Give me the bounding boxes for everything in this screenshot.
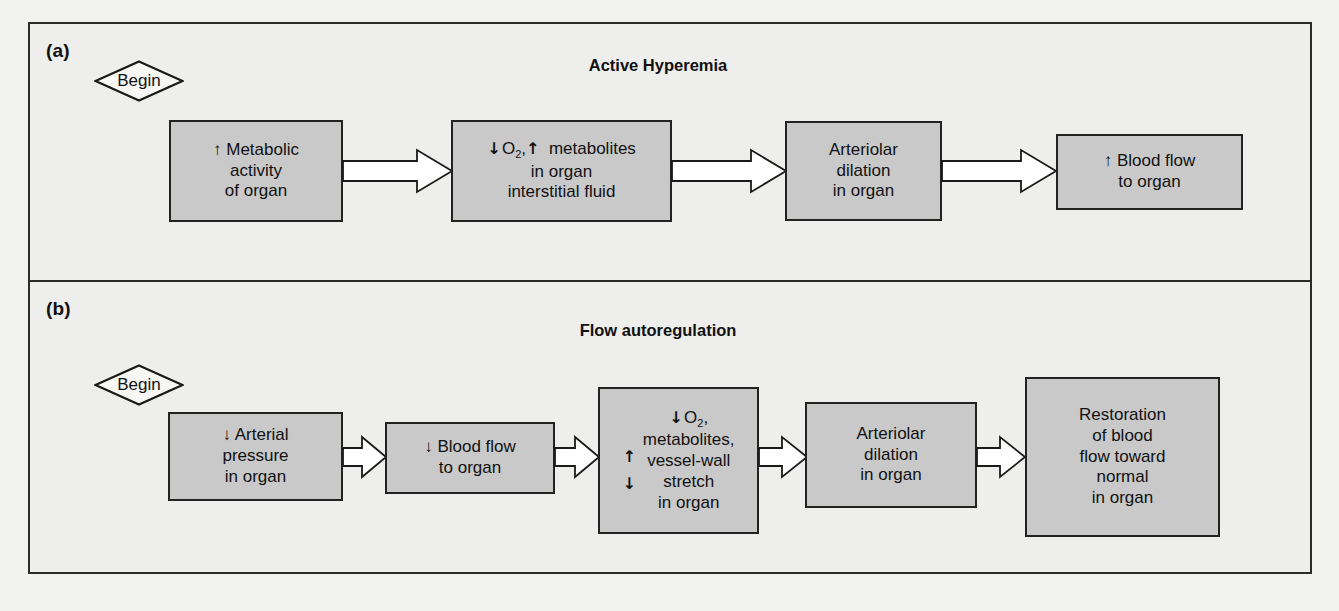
arrow-b4-to-b5	[975, 435, 1027, 479]
panel-active-hyperemia: (a) Active Hyperemia Begin ↑ Metabolic a…	[30, 24, 1310, 280]
node-a2-line-2: in organ	[487, 162, 636, 183]
arrow-b3-to-b4	[757, 435, 809, 479]
node-a3-line-1: Arteriolar	[829, 140, 898, 161]
node-o2-metabolites-stretch[interactable]: ↑ ↓ ↓ O2, metabolites, vessel-wall stret…	[598, 387, 759, 534]
node-b3-line-2: metabolites,	[643, 430, 735, 451]
node-b1-line-1: ↓ Arterial	[222, 425, 288, 446]
node-b5-line-2: of blood	[1079, 426, 1166, 447]
node-arteriolar-dilation-a[interactable]: Arteriolar dilation in organ	[785, 121, 942, 221]
node-b4-line-2: dilation	[857, 445, 926, 466]
node-b1-line-3: in organ	[222, 467, 288, 488]
node-b1-line-2: pressure	[222, 446, 288, 467]
node-a2-line-3: interstitial fluid	[487, 182, 636, 203]
node-b4-line-1: Arteriolar	[857, 424, 926, 445]
node-a3-line-2: dilation	[829, 161, 898, 182]
node-a3-line-3: in organ	[829, 181, 898, 202]
node-b3-line-3: vessel-wall	[643, 451, 735, 472]
panel-a-title: Active Hyperemia	[589, 56, 728, 75]
node-a4-line-2: to organ	[1104, 172, 1196, 193]
arrow-a2-to-a3	[670, 148, 788, 194]
node-arterial-pressure[interactable]: ↓ Arterial pressure in organ	[168, 412, 343, 501]
panel-b-title: Flow autoregulation	[580, 321, 737, 340]
arrow-a3-to-a4	[940, 148, 1058, 194]
node-b3-line-5: in organ	[643, 493, 735, 514]
arrow-a1-to-a2	[341, 148, 454, 194]
node-b5-line-4: normal	[1079, 467, 1166, 488]
node-restoration-of-blood-flow[interactable]: Restoration of blood flow toward normal …	[1025, 377, 1220, 537]
node-b5-line-3: flow toward	[1079, 447, 1166, 468]
panel-a-label: (a)	[46, 40, 70, 62]
node-o2-metabolites[interactable]: ↓ O2,↑ metabolites in organ interstitial…	[451, 120, 672, 222]
node-blood-flow-to-organ-a[interactable]: ↑ Blood flow to organ	[1056, 134, 1243, 210]
node-b3-arrow-column: ↑ ↓	[622, 427, 635, 494]
node-b3-line-4: stretch	[643, 472, 735, 493]
node-b5-line-5: in organ	[1079, 488, 1166, 509]
node-arteriolar-dilation-b[interactable]: Arteriolar dilation in organ	[805, 402, 977, 508]
begin-label-b: Begin	[94, 364, 184, 406]
panel-b-label: (b)	[46, 298, 71, 320]
arrow-b2-to-b3	[553, 435, 601, 479]
panel-flow-autoregulation: (b) Flow autoregulation Begin ↓ Arterial…	[30, 280, 1310, 574]
node-b3-down-arrow: ↓	[622, 474, 635, 494]
node-a1-line-2: activity	[213, 161, 299, 182]
node-a1-line-3: of organ	[213, 181, 299, 202]
figure-frame: (a) Active Hyperemia Begin ↑ Metabolic a…	[28, 22, 1312, 574]
begin-label-a: Begin	[94, 60, 184, 102]
begin-node-b: Begin	[94, 364, 184, 406]
arrow-b1-to-b2	[341, 435, 388, 479]
node-metabolic-activity[interactable]: ↑ Metabolic activity of organ	[169, 120, 343, 222]
node-a4-line-1: ↑ Blood flow	[1104, 151, 1196, 172]
node-b2-line-1: ↓ Blood flow	[424, 437, 516, 458]
node-blood-flow-to-organ-b[interactable]: ↓ Blood flow to organ	[385, 422, 555, 494]
node-a1-line-1: ↑ Metabolic	[213, 140, 299, 161]
node-b4-line-3: in organ	[857, 465, 926, 486]
node-a2-line-1: ↓ O2,↑ metabolites	[487, 139, 636, 162]
node-b2-line-2: to organ	[424, 458, 516, 479]
node-b3-up-arrow: ↑	[622, 447, 635, 467]
node-b3-line-1: ↓ O2,	[643, 408, 735, 431]
node-b5-line-1: Restoration	[1079, 405, 1166, 426]
begin-node-a: Begin	[94, 60, 184, 102]
